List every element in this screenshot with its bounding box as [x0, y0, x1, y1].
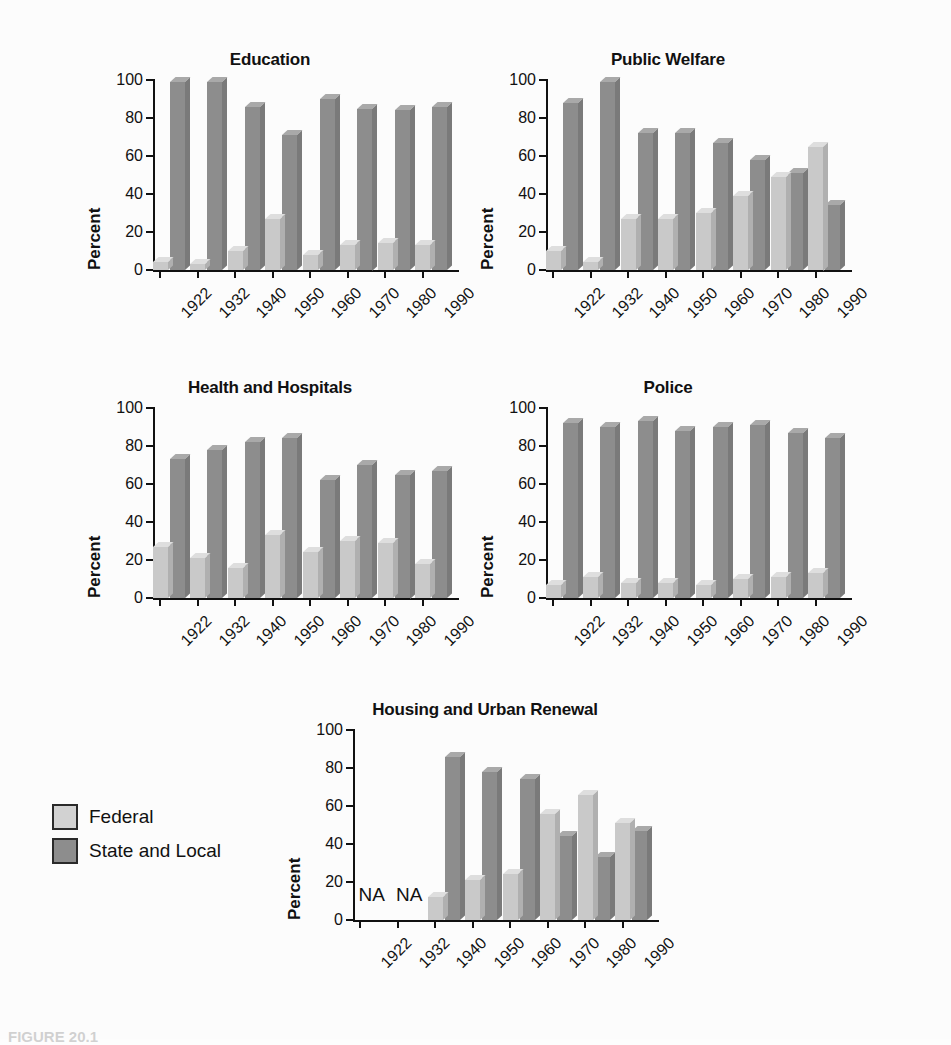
legend-swatch-state-and-local	[52, 838, 78, 864]
y-axis-label: Percent	[85, 208, 105, 270]
x-tick-label: 1960	[720, 284, 758, 322]
x-tick-mark	[815, 599, 817, 606]
y-tick-label: 0	[109, 589, 143, 607]
bar-side	[393, 538, 398, 598]
x-tick-label: 1960	[327, 284, 365, 322]
x-tick-mark	[359, 921, 361, 928]
bar-federal	[378, 543, 393, 598]
bar-side	[260, 438, 265, 598]
bar-side	[748, 191, 753, 270]
x-tick-label: 1940	[252, 284, 290, 322]
bar-face	[228, 568, 243, 598]
bar-face	[563, 423, 578, 598]
bar-face	[578, 795, 593, 920]
bar-federal	[303, 552, 318, 598]
chart-title: Education	[75, 50, 465, 70]
x-tick-mark	[702, 271, 704, 278]
bar-federal	[621, 583, 636, 598]
bar-side	[593, 790, 598, 920]
bar-face	[771, 177, 786, 270]
bar-face	[771, 577, 786, 598]
bar-side	[297, 434, 302, 598]
y-tick-label: 80	[502, 109, 536, 127]
bar-side	[786, 172, 791, 270]
x-tick-mark	[590, 271, 592, 278]
bar-face	[415, 245, 430, 270]
na-label: NA	[359, 884, 385, 906]
y-tick-label: 20	[502, 223, 536, 241]
bar-face	[733, 196, 748, 270]
bar-federal	[771, 177, 786, 270]
y-tick-label: 20	[309, 873, 343, 891]
bar-side	[728, 422, 733, 598]
bar-federal	[733, 579, 748, 598]
x-tick-label: 1980	[795, 612, 833, 650]
x-tick-mark	[627, 271, 629, 278]
bar-federal	[153, 547, 168, 598]
x-tick-label: 1970	[565, 934, 603, 972]
bar-face	[415, 564, 430, 598]
y-tick-mark	[539, 483, 546, 485]
y-tick-label: 0	[109, 261, 143, 279]
bar-face	[503, 874, 518, 920]
bar-face	[340, 541, 355, 598]
bar-face	[638, 421, 653, 598]
x-tick-label: 1980	[795, 284, 833, 322]
y-tick-label: 80	[109, 109, 143, 127]
bar-federal	[578, 795, 593, 920]
bar-side	[318, 548, 323, 598]
bar-face	[808, 147, 823, 271]
plot-area: Percent020406080100192219321940195019601…	[153, 80, 453, 270]
x-tick-label: 1970	[758, 612, 796, 650]
bar-side	[222, 77, 227, 270]
bar-face	[190, 264, 205, 270]
x-tick-label: 1922	[377, 934, 415, 972]
x-tick-label: 1990	[640, 934, 678, 972]
bar-side	[372, 104, 377, 270]
bar-federal	[415, 564, 430, 598]
bar-state-and-local	[750, 425, 765, 598]
legend-item-state-and-local: State and Local	[52, 834, 221, 868]
bar-face	[808, 573, 823, 598]
y-tick-label: 80	[309, 759, 343, 777]
x-tick-label: 1950	[290, 284, 328, 322]
bar-state-and-local	[713, 427, 728, 598]
y-tick-mark	[539, 117, 546, 119]
x-tick-mark	[234, 599, 236, 606]
bar-side	[168, 542, 173, 598]
bar-federal	[658, 219, 673, 270]
bar-side	[765, 155, 770, 270]
bar-face	[265, 535, 280, 598]
x-tick-label: 1940	[252, 612, 290, 650]
bar-face	[658, 219, 673, 270]
y-tick-mark	[346, 919, 353, 921]
bar-federal	[303, 255, 318, 270]
x-tick-mark	[472, 921, 474, 928]
bar-face	[378, 243, 393, 270]
bar-side	[355, 241, 360, 270]
chart-title: Public Welfare	[468, 50, 868, 70]
y-tick-label: 0	[502, 261, 536, 279]
bar-side	[615, 77, 620, 270]
bar-side	[335, 94, 340, 270]
bar-face	[750, 425, 765, 598]
bar-federal	[696, 213, 711, 270]
x-tick-mark	[234, 271, 236, 278]
x-tick-label: 1940	[645, 612, 683, 650]
x-tick-mark	[347, 599, 349, 606]
legend-label-state-and-local: State and Local	[89, 840, 221, 862]
bar-side	[786, 573, 791, 598]
bar-side	[280, 214, 285, 270]
bar-side	[647, 826, 652, 920]
bar-federal	[415, 245, 430, 270]
y-tick-label: 100	[109, 71, 143, 89]
bar-side	[260, 102, 265, 270]
y-tick-mark	[539, 407, 546, 409]
x-tick-label: 1970	[365, 612, 403, 650]
bar-side	[372, 460, 377, 598]
bar-federal	[583, 262, 598, 270]
chart-panel-education: EducationPercent020406080100192219321940…	[75, 50, 465, 350]
bar-side	[653, 129, 658, 270]
x-tick-label: 1970	[365, 284, 403, 322]
bar-federal	[615, 823, 630, 920]
